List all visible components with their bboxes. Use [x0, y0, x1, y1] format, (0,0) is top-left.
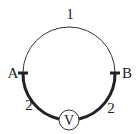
top-arc-wire [23, 27, 115, 73]
point-a-label: A [8, 65, 19, 81]
left-arc-label: 2 [25, 97, 33, 113]
voltmeter: V [59, 110, 79, 130]
top-arc-label: 1 [66, 6, 74, 22]
point-b-label: B [122, 65, 132, 81]
circuit-diagram: V 1 A B 2 2 [0, 0, 137, 134]
voltmeter-label: V [64, 113, 74, 128]
right-arc-label: 2 [107, 100, 115, 116]
